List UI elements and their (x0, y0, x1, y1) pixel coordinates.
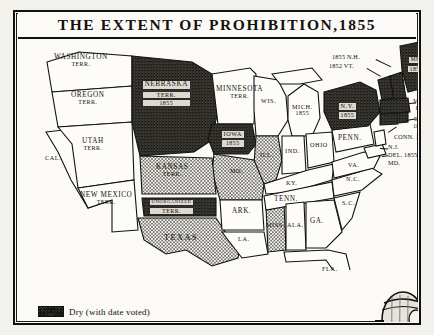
region-ohio[interactable] (306, 132, 334, 168)
region-mississippi[interactable] (266, 204, 286, 252)
region-new-york[interactable] (324, 82, 380, 130)
region-arkansas[interactable] (220, 200, 264, 230)
region-kansas-terr[interactable] (140, 156, 216, 194)
legend-label-dry: Dry (with date voted) (69, 307, 150, 317)
region-florida[interactable] (284, 250, 352, 270)
barrel-spigot-icon (375, 320, 384, 322)
title-bar: THE EXTENT OF PROHIBITION,1855 (18, 13, 416, 39)
region-minnesota-terr[interactable] (212, 68, 256, 124)
region-indiana[interactable] (282, 136, 306, 174)
legend-item-local-option: Local Option: localities privileged to v… (38, 321, 288, 323)
region-new-mexico-terr[interactable] (78, 180, 138, 232)
region-michigan-up[interactable] (272, 68, 322, 84)
region-alabama[interactable] (286, 202, 306, 250)
region-michigan[interactable] (288, 84, 320, 136)
region-iowa[interactable] (208, 124, 256, 154)
map-canvas: WASHINGTONTERR. OREGONTERR. UTAHTERR. CA… (16, 40, 418, 322)
region-new-jersey[interactable] (374, 130, 386, 146)
legend-item-dry: Dry (with date voted) (38, 304, 288, 319)
region-oregon-terr[interactable] (52, 86, 132, 127)
region-wisconsin[interactable] (254, 76, 288, 136)
region-massachusetts[interactable] (380, 98, 410, 114)
region-connecticut[interactable] (380, 113, 398, 125)
page-title: THE EXTENT OF PROHIBITION,1855 (58, 16, 376, 34)
region-unorganized-terr[interactable] (142, 198, 216, 216)
map-figure: THE EXTENT OF PROHIBITION,1855 (0, 0, 434, 335)
legend-swatch-dry (38, 306, 64, 317)
us-map-svg (16, 40, 418, 270)
region-nebraska-terr[interactable] (132, 56, 218, 156)
region-washington-terr[interactable] (47, 52, 132, 92)
region-rhode-island[interactable] (399, 112, 408, 123)
whiskey-barrel-icon (374, 289, 418, 322)
map-legend: Dry (with date voted) Local Option: loca… (38, 304, 288, 322)
